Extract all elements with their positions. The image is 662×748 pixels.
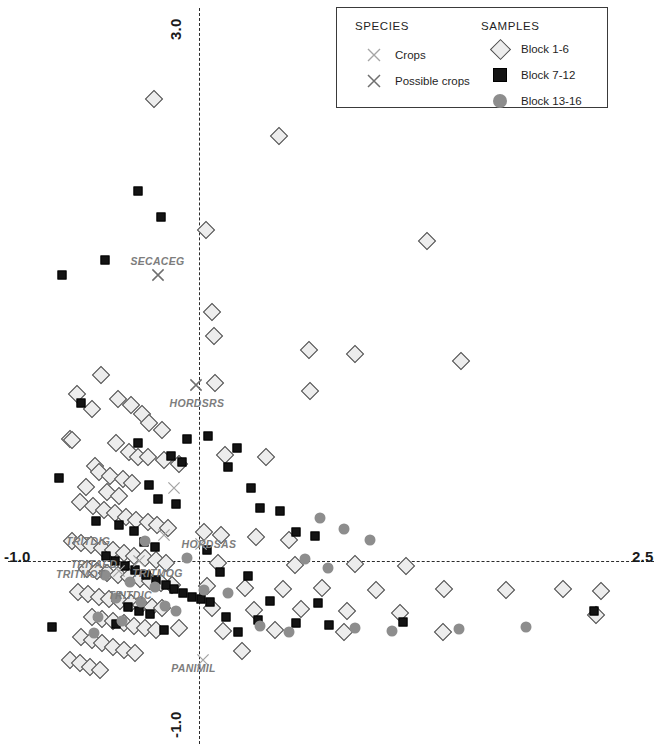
data-point-circle: [139, 535, 150, 546]
square-marker-icon: [489, 68, 511, 82]
species-label: HORDSAS: [182, 538, 237, 550]
data-point-square: [187, 592, 196, 601]
data-point-cross-dark: [151, 267, 166, 282]
data-point-diamond: [451, 352, 469, 370]
data-point-diamond: [367, 581, 385, 599]
data-point-square: [150, 543, 159, 552]
data-point-diamond: [206, 374, 224, 392]
data-point-circle: [521, 621, 532, 632]
data-point-diamond: [337, 602, 355, 620]
data-point-square: [114, 521, 123, 530]
y-axis-min-label: -1.0: [167, 711, 184, 738]
data-point-square: [160, 626, 169, 635]
data-point-square: [178, 589, 187, 598]
data-point-square: [399, 618, 408, 627]
legend-label: Possible crops: [395, 75, 470, 87]
cross-light-icon: [363, 47, 385, 63]
data-point-circle: [170, 606, 181, 617]
data-point-square: [47, 622, 56, 631]
data-point-circle: [93, 612, 104, 623]
data-point-square: [183, 435, 192, 444]
legend-item-possible-crops[interactable]: Possible crops: [363, 70, 470, 92]
data-point-square: [292, 528, 301, 537]
data-point-circle: [453, 623, 464, 634]
y-axis-line: [199, 8, 200, 744]
data-point-diamond: [435, 579, 453, 597]
data-point-circle: [283, 626, 294, 637]
legend-item-crops[interactable]: Crops: [363, 44, 426, 66]
data-point-diamond: [233, 642, 251, 660]
species-label: TRITMOG: [132, 567, 183, 579]
data-point-square: [177, 458, 186, 467]
data-point-diamond: [247, 528, 265, 546]
legend-label: Block 13-16: [521, 95, 582, 107]
data-point-square: [133, 439, 142, 448]
data-point-square: [133, 186, 142, 195]
data-point-circle: [182, 553, 193, 564]
data-point-cross-light: [167, 481, 182, 496]
data-point-circle: [364, 535, 375, 546]
data-point-square: [77, 399, 86, 408]
data-point-square: [244, 571, 253, 580]
data-point-square: [205, 598, 214, 607]
data-point-diamond: [205, 326, 223, 344]
data-point-circle: [300, 553, 311, 564]
data-point-diamond: [591, 582, 609, 600]
data-point-square: [232, 444, 241, 453]
data-point-cross-dark: [189, 377, 204, 392]
data-point-cross-light: [132, 554, 147, 569]
data-point-diamond: [145, 89, 163, 107]
species-label: TRITDIC: [108, 589, 152, 601]
data-point-diamond: [345, 345, 363, 363]
data-point-diamond: [434, 623, 452, 641]
data-point-square: [310, 532, 319, 541]
data-point-diamond: [292, 600, 310, 618]
legend-heading-samples: SAMPLES: [481, 20, 540, 32]
data-point-circle: [323, 562, 334, 573]
data-point-diamond: [235, 579, 253, 597]
data-point-square: [222, 613, 231, 622]
data-point-circle: [315, 513, 326, 524]
species-label: TRITDIG: [66, 535, 110, 547]
data-point-diamond: [301, 382, 319, 400]
data-point-square: [55, 473, 64, 482]
data-point-square: [58, 270, 67, 279]
legend-item-block-7-12[interactable]: Block 7-12: [489, 64, 575, 86]
data-point-diamond: [202, 303, 220, 321]
data-point-circle: [88, 627, 99, 638]
data-point-diamond: [91, 365, 109, 383]
data-point-square: [91, 516, 100, 525]
diamond-marker-icon: [489, 42, 511, 57]
data-point-diamond: [266, 621, 284, 639]
cross-dark-icon: [363, 73, 385, 89]
data-point-circle: [159, 601, 170, 612]
data-point-square: [154, 494, 163, 503]
legend-item-block-13-16[interactable]: Block 13-16: [489, 90, 582, 112]
data-point-square: [275, 506, 284, 515]
data-point-diamond: [139, 448, 157, 466]
circle-marker-icon: [489, 94, 511, 108]
legend-label: Block 7-12: [521, 69, 575, 81]
data-point-diamond: [269, 127, 287, 145]
y-axis-max-label: 3.0: [167, 19, 184, 40]
data-point-circle: [339, 524, 350, 535]
legend-item-block-1-6[interactable]: Block 1-6: [489, 38, 569, 60]
data-point-diamond: [256, 447, 274, 465]
legend-label: Block 1-6: [521, 43, 569, 55]
data-point-circle: [255, 620, 266, 631]
legend-label: Crops: [395, 49, 426, 61]
data-point-square: [123, 603, 132, 612]
data-point-square: [265, 596, 274, 605]
data-point-cross-light: [156, 527, 171, 542]
data-point-square: [156, 213, 165, 222]
data-point-circle: [199, 584, 210, 595]
x-axis-min-label: -1.0: [4, 548, 31, 565]
data-point-square: [129, 526, 138, 535]
data-point-square: [224, 463, 233, 472]
data-point-square: [166, 451, 175, 460]
data-point-square: [233, 627, 242, 636]
data-point-square: [291, 619, 300, 628]
data-point-diamond: [300, 341, 318, 359]
data-point-square: [215, 568, 224, 577]
data-point-diamond: [312, 579, 330, 597]
